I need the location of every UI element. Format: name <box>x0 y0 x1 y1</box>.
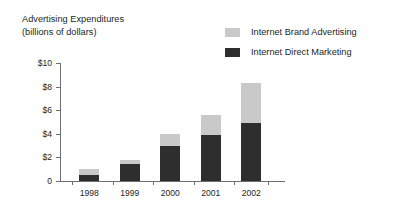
bar-segment <box>120 164 140 181</box>
y-axis-tick <box>56 110 60 111</box>
bar-1999 <box>120 160 140 181</box>
x-axis-tick-label: 2000 <box>150 189 190 198</box>
x-axis-tick-label: 1998 <box>69 189 109 198</box>
bar-1998 <box>79 169 99 181</box>
chart-title: Advertising Expenditures (billions of do… <box>22 13 232 38</box>
legend-swatch-direct-marketing-icon <box>225 48 240 57</box>
y-axis-tick-label: $6 <box>18 106 52 115</box>
x-axis-tick <box>113 181 114 185</box>
y-axis-tick <box>56 134 60 135</box>
y-axis-tick <box>56 63 60 64</box>
legend-item-brand-advertising: Internet Brand Advertising <box>225 24 403 40</box>
bar-segment <box>201 115 221 135</box>
advertising-expenditures-chart: Advertising Expenditures (billions of do… <box>0 0 405 212</box>
chart-title-line-2: (billions of dollars) <box>22 26 232 39</box>
y-axis-tick-label: 0 <box>18 177 52 186</box>
bar-2001 <box>201 115 221 181</box>
x-axis-tick <box>72 181 73 185</box>
bar-segment <box>160 134 180 146</box>
y-axis-tick <box>56 181 60 182</box>
legend-label-brand-advertising: Internet Brand Advertising <box>251 27 357 37</box>
x-axis-tick <box>194 181 195 185</box>
y-axis-line <box>60 63 61 181</box>
chart-title-line-1: Advertising Expenditures <box>22 13 232 26</box>
chart-legend: Internet Brand Advertising Internet Dire… <box>225 24 403 64</box>
bar-segment <box>79 175 99 181</box>
x-axis-tick <box>153 181 154 185</box>
y-axis-tick-label: $2 <box>18 153 52 162</box>
y-axis-tick <box>56 87 60 88</box>
y-axis-tick-label: $10 <box>18 59 52 68</box>
legend-swatch-brand-advertising-icon <box>225 28 240 37</box>
x-axis-line <box>60 181 285 182</box>
y-axis-tick-label: $4 <box>18 130 52 139</box>
legend-item-direct-marketing: Internet Direct Marketing <box>225 44 403 60</box>
bar-segment <box>241 83 261 123</box>
x-axis-tick-label: 2001 <box>191 189 231 198</box>
plot-area: 0$2$4$6$8$10 19981999200020012002 <box>60 63 285 181</box>
bar-2000 <box>160 134 180 181</box>
x-axis-tick-label: 1999 <box>110 189 150 198</box>
bar-2002 <box>241 83 261 181</box>
bar-segment <box>201 135 221 181</box>
bar-segment <box>241 123 261 181</box>
bar-segment <box>160 146 180 181</box>
x-axis-tick <box>268 181 269 185</box>
y-axis-tick <box>56 157 60 158</box>
y-axis-tick-label: $8 <box>18 83 52 92</box>
x-axis-tick <box>234 181 235 185</box>
legend-label-direct-marketing: Internet Direct Marketing <box>251 47 352 57</box>
x-axis-tick-label: 2002 <box>231 189 271 198</box>
